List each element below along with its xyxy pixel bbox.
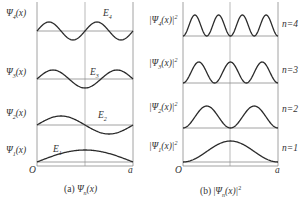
n1-label: n=1	[282, 144, 298, 154]
panel-b-origin-label: O	[175, 166, 182, 176]
energy-e2-label: E2	[98, 111, 107, 122]
prob1-curve	[183, 141, 278, 162]
n4-label: n=4	[282, 20, 298, 30]
psi3-label: Ψ3(x)	[6, 68, 26, 79]
psi1-label: Ψ1(x)	[6, 146, 26, 157]
prob1-label: |Ψ1(x)|2	[149, 140, 177, 153]
energy-e1-label: E1	[53, 145, 62, 156]
prob2-label: |Ψ2(x)|2	[149, 101, 177, 114]
panel-b-plots	[183, 2, 278, 166]
psi2-label: Ψ2(x)	[6, 109, 26, 120]
energy-e4-label: E4	[103, 9, 112, 20]
panel-a-caption: (a) Ψn(x)	[64, 185, 97, 196]
prob4-label: |Ψ4(x)|2	[149, 14, 177, 27]
panel-a-plots	[37, 2, 133, 166]
energy-e3-label: E3	[90, 68, 99, 79]
prob4-curve	[183, 15, 278, 36]
n3-label: n=3	[282, 66, 298, 76]
prob3-curve	[183, 62, 278, 83]
n2-label: n=2	[282, 105, 298, 115]
prob3-label: |Ψ3(x)|2	[149, 57, 177, 70]
panel-a-origin-label: O	[29, 166, 36, 176]
panel-b-end-label: a	[275, 166, 280, 176]
psi4-label: Ψ4(x)	[6, 9, 26, 20]
prob2-curve	[183, 106, 278, 128]
panel-b-caption: (b) |Ψn(x)|2	[200, 185, 241, 198]
panel-a-end-label: a	[128, 166, 133, 176]
